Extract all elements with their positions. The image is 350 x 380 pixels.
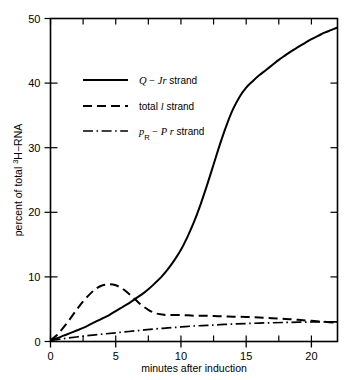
legend-entry-2: pR − P r strand <box>83 126 204 142</box>
x-tick-label: 10 <box>175 350 187 362</box>
x-tick-label: 0 <box>47 350 53 362</box>
legend-word-strand: strand <box>167 75 198 86</box>
series-line-1 <box>51 284 338 340</box>
x-tick-label: 5 <box>113 350 119 362</box>
figure-container: 0510152001020304050minutes after inducti… <box>0 0 350 380</box>
series-line-2 <box>51 322 338 341</box>
legend-word-total: total <box>139 101 161 112</box>
y-tick-label: 30 <box>28 142 40 154</box>
legend-label-2: pR − P r strand <box>138 126 204 142</box>
x-tick-label: 15 <box>240 350 252 362</box>
superscript-3: 3 <box>11 160 20 164</box>
y-axis-title-text: percent of total 3H−RNA <box>11 124 25 236</box>
y-tick-label: 50 <box>28 13 40 25</box>
x-tick-label: 20 <box>305 350 317 362</box>
plot-frame <box>51 19 338 342</box>
legend-sub-r: R <box>144 133 150 142</box>
y-tick-label: 40 <box>28 77 40 89</box>
legend-entry-1: total l strand <box>83 101 194 112</box>
legend-word-strand: strand <box>164 101 195 112</box>
y-tick-label: 0 <box>34 336 40 348</box>
legend-word-strand: strand <box>174 126 205 137</box>
legend-label-0: Q − Jr strand <box>139 75 197 86</box>
chart-canvas: 0510152001020304050minutes after inducti… <box>0 0 350 380</box>
y-axis-title: percent of total 3H−RNA <box>11 124 25 236</box>
y-tick-label: 10 <box>28 271 40 283</box>
legend-label-1: total l strand <box>139 101 194 112</box>
legend-sym-q: Q <box>139 75 147 86</box>
y-tick-label: 20 <box>28 206 40 218</box>
x-axis-title: minutes after induction <box>141 362 247 374</box>
legend-entry-0: Q − Jr strand <box>83 75 197 86</box>
